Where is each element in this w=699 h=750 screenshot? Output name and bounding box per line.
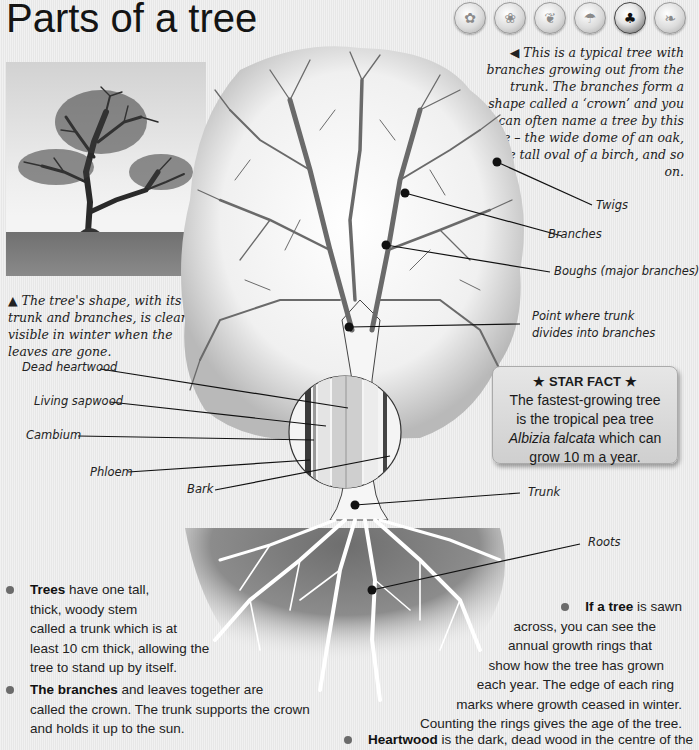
label-twigs: Twigs (596, 198, 628, 212)
label-living-sapwood: Living sapwood (34, 394, 123, 408)
label-point-where-trunk: Point where trunk divides into branches (532, 309, 655, 340)
label-branches: Branches (548, 227, 602, 241)
bullet-growth-rings: If a tree is sawn across, you can see th… (342, 597, 682, 734)
trunk-cross-section (289, 376, 401, 488)
label-trunk: Trunk (528, 485, 560, 499)
bullet-trees: Trees have one tall, thick, woody stem c… (6, 580, 306, 678)
bullet-icon (344, 736, 352, 744)
star-fact-title: ★ STAR FACT ★ (493, 372, 677, 391)
label-cambium: Cambium (26, 428, 81, 442)
label-roots: Roots (588, 535, 621, 549)
label-bark: Bark (187, 482, 213, 496)
label-phloem: Phloem (90, 465, 133, 479)
bullet-icon (6, 686, 14, 694)
bullet-icon (6, 586, 14, 594)
bullet-icon (561, 603, 569, 611)
species-name: Albizia falcata (509, 430, 595, 446)
star-fact-box: ★ STAR FACT ★ The fastest-growing tree i… (492, 366, 678, 464)
label-dead-heartwood: Dead heartwood (22, 360, 117, 374)
bullet-heartwood: Heartwood is the dark, dead wood in the … (344, 730, 688, 750)
label-boughs: Boughs (major branches) (554, 264, 699, 278)
bullet-branches: The branches and leaves together are cal… (6, 680, 336, 739)
